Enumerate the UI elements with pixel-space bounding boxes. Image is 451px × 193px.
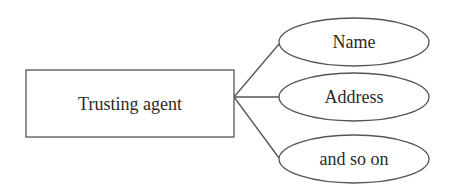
connector-name <box>234 44 279 97</box>
attribute-address: Address <box>279 73 429 121</box>
attribute-label: Address <box>325 87 384 107</box>
attribute-label: Name <box>333 32 376 52</box>
diagram-canvas: Trusting agent Name Address and so on <box>0 0 451 193</box>
attribute-and-so-on: and so on <box>279 135 429 183</box>
attribute-name: Name <box>279 18 429 66</box>
attribute-label: and so on <box>320 149 389 169</box>
entity-trusting-agent: Trusting agent <box>26 70 234 137</box>
connector-and-so-on <box>234 97 279 158</box>
diagram-svg: Trusting agent Name Address and so on <box>0 0 451 193</box>
entity-label: Trusting agent <box>78 94 182 114</box>
connectors <box>234 44 279 158</box>
